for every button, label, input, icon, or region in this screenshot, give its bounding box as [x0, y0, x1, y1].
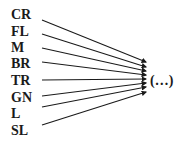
arrow-line-cr: [42, 20, 146, 62]
source-label-m: M: [11, 40, 24, 55]
source-label-cr: CR: [11, 7, 32, 22]
source-label-br: BR: [11, 56, 31, 71]
target-label: (…): [150, 73, 174, 89]
arrow-line-m: [42, 48, 146, 71]
arrow-line-br: [42, 62, 146, 75]
source-label-gn: GN: [11, 90, 32, 105]
source-label-tr: TR: [11, 73, 31, 88]
source-label-l: L: [11, 106, 20, 121]
arrow-lines: [42, 20, 146, 125]
source-labels: CRFLMBRTRGNLSL: [11, 7, 32, 138]
source-label-fl: FL: [11, 24, 29, 39]
source-label-sl: SL: [11, 123, 28, 138]
fan-in-diagram: CRFLMBRTRGNLSL (…): [0, 0, 189, 141]
arrow-line-tr: [42, 79, 146, 80]
arrow-line-fl: [42, 34, 146, 67]
